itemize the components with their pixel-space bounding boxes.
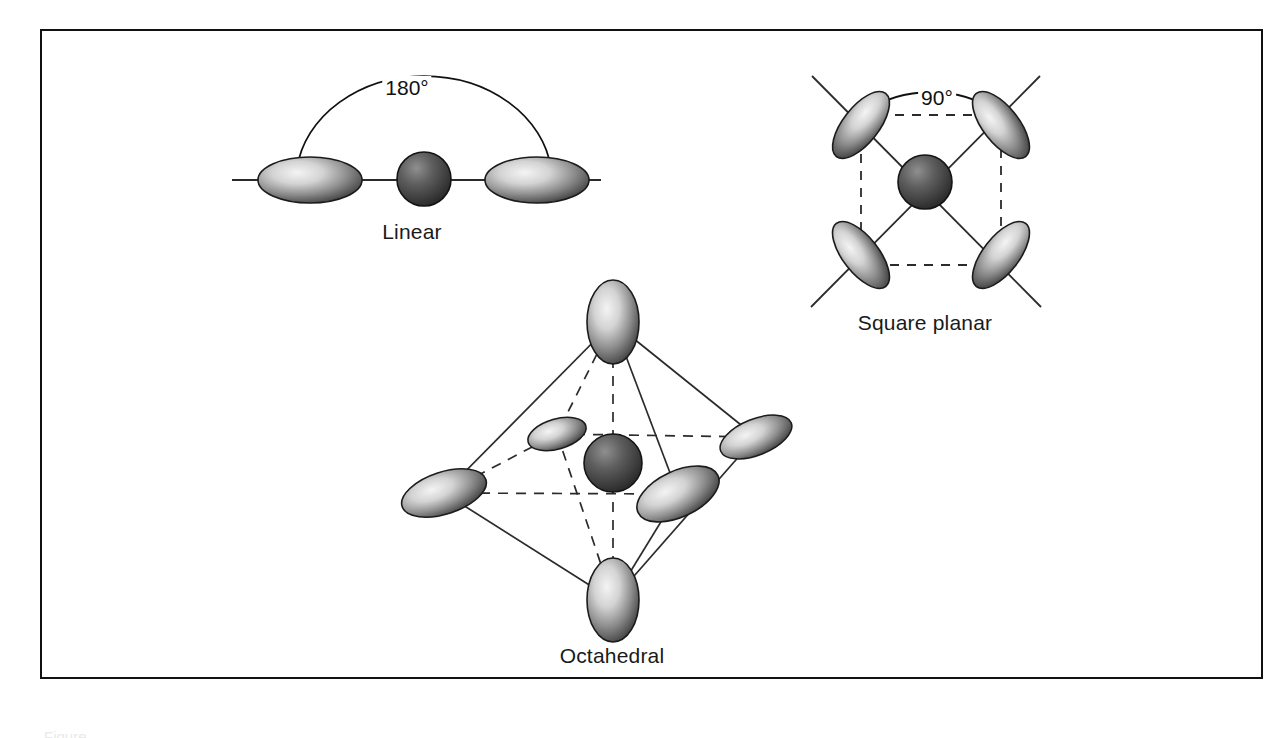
linear-label: Linear [382, 220, 442, 244]
figure-root: 180° 90° Linear Square planar Octahedral… [0, 0, 1284, 738]
linear-ligand-lobe [258, 157, 362, 203]
octahedral-ligand-lobe [524, 411, 590, 456]
molecular-geometry-illustration [0, 0, 1284, 738]
square-planar-angle-label: 90° [918, 86, 956, 110]
octahedral-ligand-lobe [587, 558, 639, 642]
octahedral-label: Octahedral [560, 644, 665, 668]
octahedral-central-atom [584, 434, 642, 492]
diagram-square-planar [811, 76, 1041, 307]
linear-ligand-lobe [485, 157, 589, 203]
linear-angle-label: 180° [382, 76, 431, 100]
octahedral-ligand-lobe [396, 459, 493, 526]
linear-central-atom [397, 152, 451, 206]
square-planar-label: Square planar [858, 311, 993, 335]
octahedral-ligand-lobe [628, 455, 727, 534]
octahedral-ligand-lobe [587, 280, 639, 364]
figure-caption-partial: Figure [44, 728, 87, 738]
square-planar-central-atom [898, 155, 952, 209]
octahedral-ligand-lobe [714, 406, 798, 468]
diagram-octahedral [396, 280, 798, 642]
